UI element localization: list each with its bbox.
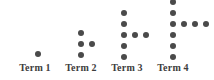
pattern-dot (121, 32, 127, 38)
pattern-dot (78, 52, 84, 58)
term-label: Term 4 (142, 62, 204, 73)
pattern-dot (192, 21, 198, 27)
term-group: Term 4 (142, 0, 204, 80)
pattern-dot (78, 41, 84, 47)
pattern-dot (121, 10, 127, 16)
pattern-dot (78, 30, 84, 36)
dot-pattern-figure: Term 1Term 2Term 3Term 4 (0, 0, 214, 80)
pattern-dot (181, 21, 187, 27)
pattern-dot (170, 54, 176, 60)
pattern-dot (132, 32, 138, 38)
pattern-dot (121, 43, 127, 49)
pattern-dot (121, 54, 127, 60)
pattern-dot (170, 21, 176, 27)
pattern-dot (89, 41, 95, 47)
pattern-dot (121, 21, 127, 27)
pattern-dot (170, 10, 176, 16)
pattern-dot (203, 21, 209, 27)
pattern-dot (170, 32, 176, 38)
pattern-dot (35, 51, 41, 57)
pattern-dot (170, 43, 176, 49)
pattern-dot (170, 0, 176, 5)
dot-field (142, 0, 204, 60)
